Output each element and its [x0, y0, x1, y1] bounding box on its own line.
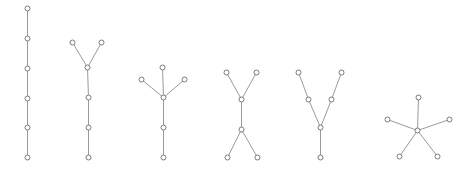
- vertex-node: [416, 95, 421, 100]
- tree-graph-h-shape-6: [224, 70, 260, 160]
- edge: [418, 98, 419, 131]
- vertex-node: [25, 96, 30, 101]
- vertex-node: [318, 125, 323, 130]
- edge: [321, 100, 332, 128]
- vertex-node: [139, 77, 144, 82]
- tree-graph-fork-6: [70, 40, 104, 160]
- vertex-node: [86, 125, 91, 130]
- edge: [227, 73, 242, 100]
- vertex-node: [385, 117, 390, 122]
- vertex-node: [161, 155, 166, 160]
- edge: [400, 131, 418, 157]
- edge: [73, 43, 88, 68]
- edge: [388, 120, 418, 131]
- vertex-node: [255, 155, 260, 160]
- vertex-node: [254, 70, 259, 75]
- trees-diagram: [0, 0, 471, 172]
- vertex-node: [85, 65, 90, 70]
- vertex-node: [397, 154, 402, 159]
- vertex-node: [182, 77, 187, 82]
- edge: [88, 43, 102, 68]
- vertex-node: [435, 154, 440, 159]
- edge: [418, 120, 450, 131]
- edge: [88, 68, 89, 98]
- vertex-node: [415, 128, 420, 133]
- vertex-node: [447, 117, 452, 122]
- vertex-node: [329, 97, 334, 102]
- vertex-node: [161, 95, 166, 100]
- vertex-node: [160, 65, 165, 70]
- vertex-node: [25, 36, 30, 41]
- edge: [242, 130, 258, 158]
- vertex-node: [25, 125, 30, 130]
- vertex-node: [224, 70, 229, 75]
- vertex-node: [239, 97, 244, 102]
- vertex-node: [25, 155, 30, 160]
- vertex-node: [296, 70, 301, 75]
- tree-graph-tripod-6: [139, 65, 187, 160]
- edge: [242, 73, 257, 100]
- vertex-node: [318, 155, 323, 160]
- vertex-node: [86, 155, 91, 160]
- edge: [299, 73, 309, 100]
- vertex-node: [70, 40, 75, 45]
- vertex-node: [239, 127, 244, 132]
- vertex-node: [86, 95, 91, 100]
- vertex-node: [161, 125, 166, 130]
- tree-graph-path-6: [25, 6, 30, 160]
- edge: [309, 100, 321, 128]
- edge: [418, 131, 438, 157]
- vertex-node: [306, 97, 311, 102]
- edge: [332, 73, 342, 100]
- edge: [228, 130, 242, 158]
- edge: [164, 80, 185, 98]
- vertex-node: [225, 155, 230, 160]
- edge: [142, 80, 164, 98]
- vertex-node: [25, 6, 30, 11]
- vertex-node: [99, 40, 104, 45]
- tree-graph-star-6: [385, 95, 452, 159]
- edge: [163, 68, 164, 98]
- vertex-node: [339, 70, 344, 75]
- vertex-node: [25, 66, 30, 71]
- tree-graph-spider-6: [296, 70, 344, 160]
